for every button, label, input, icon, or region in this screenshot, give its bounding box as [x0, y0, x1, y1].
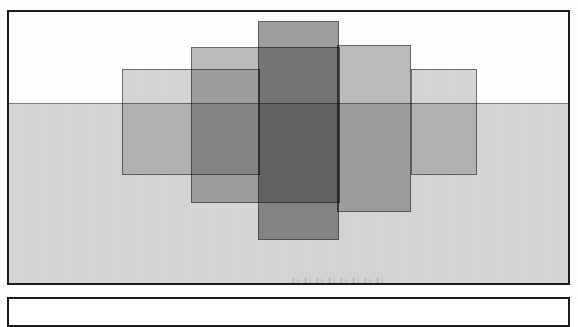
figure-caption: [0, 0, 1, 1]
bar-rect-bar-3: [258, 21, 339, 240]
figure-frame-next: [7, 297, 570, 327]
bar-rect-bar-5: [411, 69, 477, 175]
bar-rect-bar-4: [337, 45, 411, 212]
plot-canvas: [9, 12, 568, 283]
figure-frame-main: [7, 10, 570, 285]
